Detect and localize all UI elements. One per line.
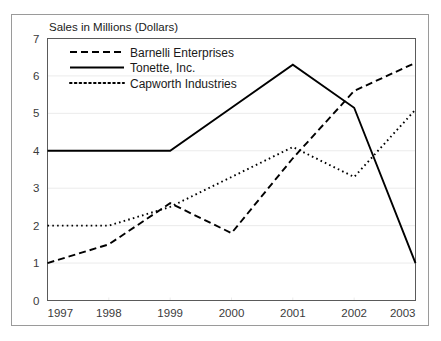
x-tick-label-1997: 1997 [48, 307, 74, 319]
legend-label-tonette-inc: Tonette, Inc. [130, 61, 195, 75]
x-tick-label-2003: 2003 [390, 307, 416, 319]
data-series [48, 63, 416, 263]
gridlines [48, 76, 416, 301]
legend: Barnelli EnterprisesTonette, Inc.Capwort… [70, 46, 237, 91]
x-tick-label-2001: 2001 [280, 307, 306, 319]
x-tick-label-2000: 2000 [219, 307, 245, 319]
legend-label-barnelli-enterprises: Barnelli Enterprises [130, 46, 234, 60]
chart-figure: 01234567 1997199819992000200120022003 Sa… [0, 0, 441, 341]
x-tick-label-1998: 1998 [96, 307, 122, 319]
y-axis-tick-labels: 01234567 [33, 33, 40, 307]
x-tick-label-2002: 2002 [341, 307, 367, 319]
series-line-tonette-inc [48, 65, 416, 263]
y-tick-label-1: 1 [33, 257, 39, 269]
line-chart: 01234567 1997199819992000200120022003 Sa… [0, 0, 441, 341]
y-tick-label-0: 0 [33, 295, 39, 307]
y-tick-label-2: 2 [33, 220, 39, 232]
y-tick-label-6: 6 [33, 70, 39, 82]
x-tick-label-1999: 1999 [157, 307, 183, 319]
y-tick-label-3: 3 [33, 182, 39, 194]
series-line-barnelli-enterprises [48, 63, 416, 263]
legend-label-capworth-industries: Capworth Industries [130, 77, 237, 91]
series-line-capworth-industries [48, 110, 416, 226]
y-tick-label-4: 4 [33, 145, 40, 157]
y-tick-label-7: 7 [33, 33, 39, 45]
y-tick-label-5: 5 [33, 107, 39, 119]
x-axis-tick-labels: 1997199819992000200120022003 [48, 307, 416, 319]
axis-title: Sales in Millions (Dollars) [49, 21, 178, 33]
